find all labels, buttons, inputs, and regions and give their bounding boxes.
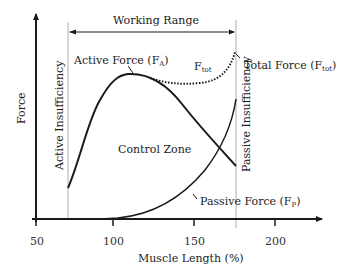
ftot-label: Ftot	[194, 61, 211, 74]
passive-force-leader	[193, 194, 197, 199]
passive-force-label: Passive Force (FP)	[200, 196, 301, 209]
x-tick-label-150: 150	[184, 236, 205, 247]
x-axis-label: Muscle Length (%)	[138, 253, 244, 264]
active-force-label: Active Force (FA)	[74, 55, 169, 68]
active-insufficiency-label: Active Insufficiency	[54, 170, 163, 181]
x-tick-label-200: 200	[265, 236, 286, 247]
working-range-left-arrowhead	[69, 30, 76, 35]
passive-insufficiency-label: Passive Insufficiency	[241, 172, 345, 183]
total-force-label: Total Force (Ftot)	[244, 60, 336, 73]
x-tick-label-50: 50	[30, 236, 44, 247]
x-tick-label-100: 100	[103, 236, 124, 247]
chart-canvas	[0, 0, 345, 273]
working-range-label: Working Range	[113, 15, 199, 26]
y-axis-label: Force	[16, 124, 48, 135]
control-zone-label: Control Zone	[118, 144, 191, 155]
